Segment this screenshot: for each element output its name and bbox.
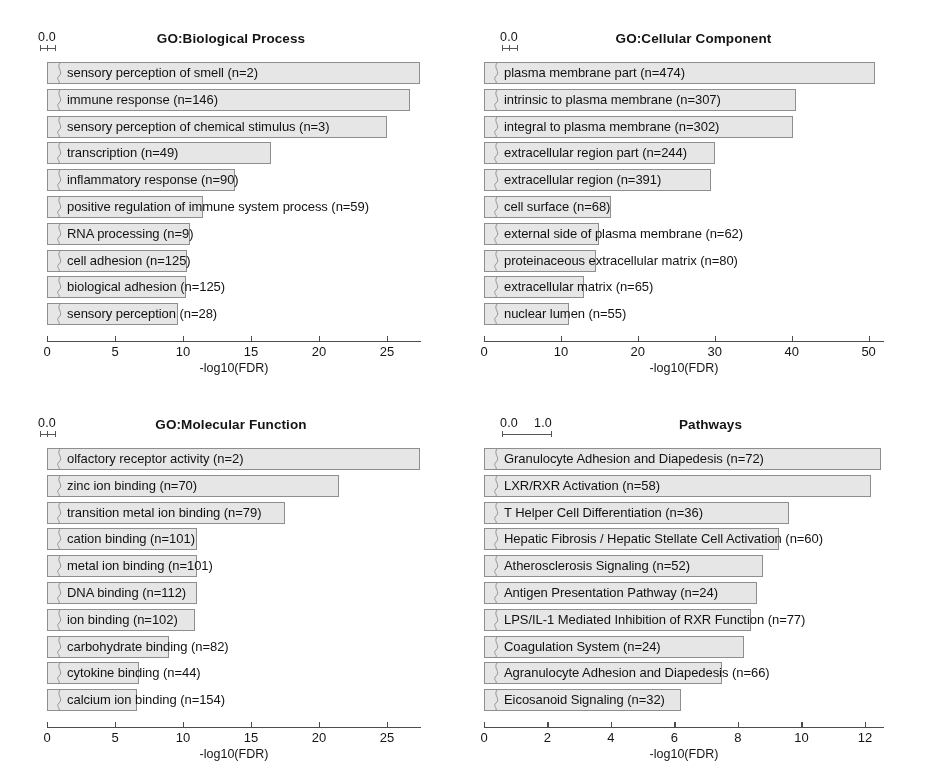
bar-row[interactable]: T Helper Cell Differentiation (n=36) bbox=[462, 500, 925, 527]
axis-tick-label: 0 bbox=[43, 344, 50, 359]
bar-row[interactable]: sensory perception of chemical stimulus … bbox=[0, 114, 462, 141]
bar-row[interactable]: carbohydrate binding (n=82) bbox=[0, 634, 462, 661]
figure-panel-grid: 0.0 GO:Biological Process sensory percep… bbox=[0, 0, 925, 772]
bar-row[interactable]: nuclear lumen (n=55) bbox=[462, 301, 925, 328]
bar-label: cell adhesion (n=125) bbox=[67, 250, 191, 272]
bar-row[interactable]: Agranulocyte Adhesion and Diapedesis (n=… bbox=[462, 660, 925, 687]
bar-label: transition metal ion binding (n=79) bbox=[67, 502, 261, 524]
bar-label: ion binding (n=102) bbox=[67, 609, 178, 631]
bar-row[interactable]: Coagulation System (n=24) bbox=[462, 634, 925, 661]
bar-row[interactable]: extracellular region part (n=244) bbox=[462, 140, 925, 167]
x-axis-title: -log10(FDR) bbox=[47, 747, 421, 761]
bar-row[interactable]: extracellular region (n=391) bbox=[462, 167, 925, 194]
bar-label: sensory perception (n=28) bbox=[67, 303, 217, 325]
axis-tick bbox=[183, 722, 184, 728]
axis-tick-label: 15 bbox=[244, 344, 258, 359]
bar-row[interactable]: transition metal ion binding (n=79) bbox=[0, 500, 462, 527]
bar-row[interactable]: metal ion binding (n=101) bbox=[0, 553, 462, 580]
bar-label: sensory perception of smell (n=2) bbox=[67, 62, 258, 84]
bar-row[interactable]: transcription (n=49) bbox=[0, 140, 462, 167]
bar-label: LXR/RXR Activation (n=58) bbox=[504, 475, 660, 497]
bar-label: integral to plasma membrane (n=302) bbox=[504, 116, 719, 138]
bar-row[interactable]: RNA processing (n=9) bbox=[0, 221, 462, 248]
bar-row[interactable]: ion binding (n=102) bbox=[0, 607, 462, 634]
axis-tick bbox=[638, 336, 639, 342]
axis-tick bbox=[484, 722, 485, 728]
bar-rows: plasma membrane part (n=474) intrinsic t… bbox=[462, 60, 925, 328]
bar-row[interactable]: cell adhesion (n=125) bbox=[0, 248, 462, 275]
bar-row[interactable]: cytokine binding (n=44) bbox=[0, 660, 462, 687]
bar-row[interactable]: cation binding (n=101) bbox=[0, 526, 462, 553]
bar-row[interactable]: plasma membrane part (n=474) bbox=[462, 60, 925, 87]
bar-label: positive regulation of immune system pro… bbox=[67, 196, 369, 218]
axis-tick-label: 25 bbox=[380, 730, 394, 745]
bar-label: T Helper Cell Differentiation (n=36) bbox=[504, 502, 703, 524]
panel-title: Pathways bbox=[462, 417, 925, 432]
bar-row[interactable]: biological adhesion (n=125) bbox=[0, 274, 462, 301]
axis-tick bbox=[561, 336, 562, 342]
bar-row[interactable]: sensory perception (n=28) bbox=[0, 301, 462, 328]
axis-tick-label: 30 bbox=[708, 344, 722, 359]
x-axis-title: -log10(FDR) bbox=[484, 747, 884, 761]
bar-label: extracellular region part (n=244) bbox=[504, 142, 687, 164]
bar-row[interactable]: olfactory receptor activity (n=2) bbox=[0, 446, 462, 473]
bar-label: olfactory receptor activity (n=2) bbox=[67, 448, 243, 470]
bar-row[interactable]: external side of plasma membrane (n=62) bbox=[462, 221, 925, 248]
axis-tick-label: 5 bbox=[111, 344, 118, 359]
bar-label: Eicosanoid Signaling (n=32) bbox=[504, 689, 665, 711]
axis-tick bbox=[547, 722, 548, 728]
bar-row[interactable]: Antigen Presentation Pathway (n=24) bbox=[462, 580, 925, 607]
bar-row[interactable]: calcium ion binding (n=154) bbox=[0, 687, 462, 714]
panel-go-molecular-function: 0.0 GO:Molecular Function olfactory rece… bbox=[0, 386, 462, 772]
axis-tick-label: 2 bbox=[544, 730, 551, 745]
axis-tick-label: 10 bbox=[554, 344, 568, 359]
axis-tick-label: 10 bbox=[176, 344, 190, 359]
bar-row[interactable]: LPS/IL-1 Mediated Inhibition of RXR Func… bbox=[462, 607, 925, 634]
bar-row[interactable]: DNA binding (n=112) bbox=[0, 580, 462, 607]
axis-tick bbox=[611, 722, 612, 728]
axis-tick bbox=[674, 722, 675, 728]
bar-row[interactable]: Atherosclerosis Signaling (n=52) bbox=[462, 553, 925, 580]
bar-label: Antigen Presentation Pathway (n=24) bbox=[504, 582, 718, 604]
bar-label: intrinsic to plasma membrane (n=307) bbox=[504, 89, 721, 111]
bar-row[interactable]: integral to plasma membrane (n=302) bbox=[462, 114, 925, 141]
axis-tick-label: 0 bbox=[480, 344, 487, 359]
bar-row[interactable]: inflammatory response (n=90) bbox=[0, 167, 462, 194]
axis-tick-label: 15 bbox=[244, 730, 258, 745]
axis-tick-label: 25 bbox=[380, 344, 394, 359]
axis-tick-label: 12 bbox=[858, 730, 872, 745]
bar-row[interactable]: proteinaceous extracellular matrix (n=80… bbox=[462, 248, 925, 275]
bar-label: zinc ion binding (n=70) bbox=[67, 475, 197, 497]
bar-row[interactable]: positive regulation of immune system pro… bbox=[0, 194, 462, 221]
bar-row[interactable]: cell surface (n=68) bbox=[462, 194, 925, 221]
axis-tick bbox=[319, 722, 320, 728]
bar-row[interactable]: immune response (n=146) bbox=[0, 87, 462, 114]
bar-row[interactable]: Eicosanoid Signaling (n=32) bbox=[462, 687, 925, 714]
bar-row[interactable]: Hepatic Fibrosis / Hepatic Stellate Cell… bbox=[462, 526, 925, 553]
panel-title: GO:Molecular Function bbox=[0, 417, 462, 432]
axis-tick bbox=[387, 336, 388, 342]
bar-row[interactable]: sensory perception of smell (n=2) bbox=[0, 60, 462, 87]
bar-label: Atherosclerosis Signaling (n=52) bbox=[504, 555, 690, 577]
axis-tick-label: 5 bbox=[111, 730, 118, 745]
axis-tick-label: 0 bbox=[480, 730, 487, 745]
axis-tick bbox=[319, 336, 320, 342]
bar-row[interactable]: zinc ion binding (n=70) bbox=[0, 473, 462, 500]
axis-tick bbox=[865, 722, 866, 728]
bar-rows: sensory perception of smell (n=2) immune… bbox=[0, 60, 462, 328]
x-axis-title: -log10(FDR) bbox=[484, 361, 884, 375]
bar-row[interactable]: Granulocyte Adhesion and Diapedesis (n=7… bbox=[462, 446, 925, 473]
bar-label: Coagulation System (n=24) bbox=[504, 636, 661, 658]
x-axis-title: -log10(FDR) bbox=[47, 361, 421, 375]
bar-row[interactable]: extracellular matrix (n=65) bbox=[462, 274, 925, 301]
panel-pathways: 0.01.0 Pathways Granulocyte Adhesion and… bbox=[462, 386, 925, 772]
panel-go-biological-process: 0.0 GO:Biological Process sensory percep… bbox=[0, 0, 462, 386]
axis-tick-label: 50 bbox=[861, 344, 875, 359]
bar-label: Granulocyte Adhesion and Diapedesis (n=7… bbox=[504, 448, 764, 470]
bar-label: metal ion binding (n=101) bbox=[67, 555, 213, 577]
axis-tick-label: 40 bbox=[784, 344, 798, 359]
bar-label: RNA processing (n=9) bbox=[67, 223, 194, 245]
axis-tick bbox=[47, 336, 48, 342]
bar-row[interactable]: LXR/RXR Activation (n=58) bbox=[462, 473, 925, 500]
bar-row[interactable]: intrinsic to plasma membrane (n=307) bbox=[462, 87, 925, 114]
